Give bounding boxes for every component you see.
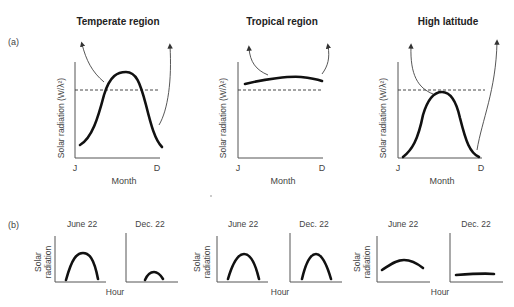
x-start-label: J (236, 163, 241, 173)
plot-title: Temperate region (76, 16, 159, 27)
dec-title: Dec. 22 (461, 219, 491, 229)
dec-title: Dec. 22 (135, 219, 165, 229)
daily-group-temperate: June 22 Dec. 22 Solar radiation Hour (33, 219, 178, 297)
june-curve (382, 260, 423, 270)
y-label-line1: Solar (192, 252, 202, 272)
y-axis-label: Solar radiation (W/λ²) (218, 78, 228, 158)
dec-axes (290, 233, 342, 282)
x-axis-label: Hour (431, 287, 450, 297)
y-label-line2: radiation (43, 245, 53, 278)
arrow-icon (249, 48, 268, 75)
x-axis-label: Month (270, 176, 295, 186)
x-end-label: D (319, 163, 326, 173)
solar-radiation-figure: (a) Temperate region Solar radiation (W/… (0, 0, 514, 307)
x-end-label: D (154, 163, 161, 173)
plot-temperate: Temperate region Solar radiation (W/λ²) … (56, 16, 171, 186)
dec-curve (302, 254, 331, 279)
x-start-label: J (396, 163, 401, 173)
x-start-label: J (73, 163, 78, 173)
arrow-icon (477, 42, 497, 150)
x-end-label: D (478, 163, 485, 173)
panel-a-label: (a) (8, 37, 19, 47)
june-title: June 22 (388, 219, 419, 229)
x-axis-label: Hour (106, 287, 125, 297)
x-axis-label: Month (429, 176, 454, 186)
daily-group-high-latitude: June 22 Dec. 22 Solar radiation Hour (352, 219, 503, 297)
arrow-icon (159, 46, 171, 125)
dec-title: Dec. 22 (299, 219, 329, 229)
june-curve (66, 253, 98, 280)
x-axis-label: Month (111, 176, 136, 186)
arrow-icon (411, 46, 433, 94)
daily-group-tropical: June 22 Dec. 22 Solar radiation Hour (192, 219, 342, 297)
arrow-icon (322, 46, 329, 74)
dec-curve (456, 274, 494, 275)
june-title: June 22 (228, 219, 259, 229)
dec-axes (126, 233, 178, 282)
june-curve (228, 254, 259, 279)
axes (398, 62, 482, 158)
y-label-line1: Solar (352, 252, 362, 272)
radiation-curve (245, 77, 322, 84)
y-label-line2: radiation (202, 245, 212, 278)
plot-title: High latitude (418, 16, 479, 27)
radiation-curve (80, 72, 162, 147)
axes (238, 62, 323, 158)
stray-dot (210, 195, 212, 197)
y-label-line1: Solar (33, 252, 43, 272)
june-axes (217, 236, 268, 282)
radiation-curve (403, 92, 479, 157)
arrow-icon (82, 44, 104, 82)
june-title: June 22 (67, 219, 98, 229)
plot-title: Tropical region (246, 16, 318, 27)
plot-tropical: Tropical region Solar radiation (W/λ²) J… (218, 16, 329, 186)
y-axis-label: Solar radiation (W/λ²) (56, 78, 66, 158)
dec-curve (145, 272, 163, 280)
plot-high-latitude: High latitude Solar radiation (W/λ²) J D… (378, 16, 497, 186)
x-axis-label: Hour (271, 287, 290, 297)
y-axis-label: Solar radiation (W/λ²) (378, 78, 388, 158)
y-label-line2: radiation (362, 245, 372, 278)
panel-b-label: (b) (8, 220, 19, 230)
